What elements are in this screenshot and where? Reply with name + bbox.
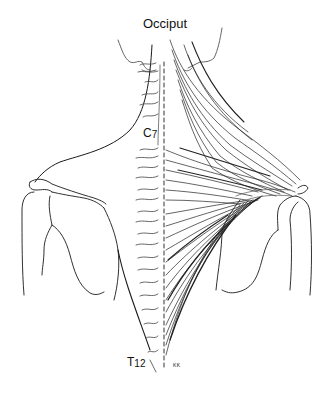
occiput-label: Occiput xyxy=(143,16,187,31)
left-back-contour xyxy=(118,250,150,350)
left-neck-outline xyxy=(35,45,152,182)
trapezius-lower-fibers xyxy=(166,196,262,355)
occiput-text: Occiput xyxy=(143,16,187,31)
t12-vertebra-label: T12 xyxy=(127,355,145,369)
c7-vertebra-label: C7 xyxy=(143,126,157,140)
t12-number: 12 xyxy=(134,358,145,369)
head-base-outline xyxy=(118,28,222,72)
left-neck-inner xyxy=(158,65,160,145)
c7-letter: C xyxy=(143,126,152,140)
anatomy-drawing xyxy=(0,0,328,401)
spine-vertebrae xyxy=(136,62,164,372)
c7-number: 7 xyxy=(152,129,158,140)
signature-text: KK xyxy=(173,362,180,368)
left-shoulder-outline xyxy=(22,179,119,300)
trapezius-illustration: Occiput C7 T12 KK xyxy=(0,0,328,401)
artist-signature: KK xyxy=(173,362,180,368)
right-shoulder-outline xyxy=(216,185,312,295)
